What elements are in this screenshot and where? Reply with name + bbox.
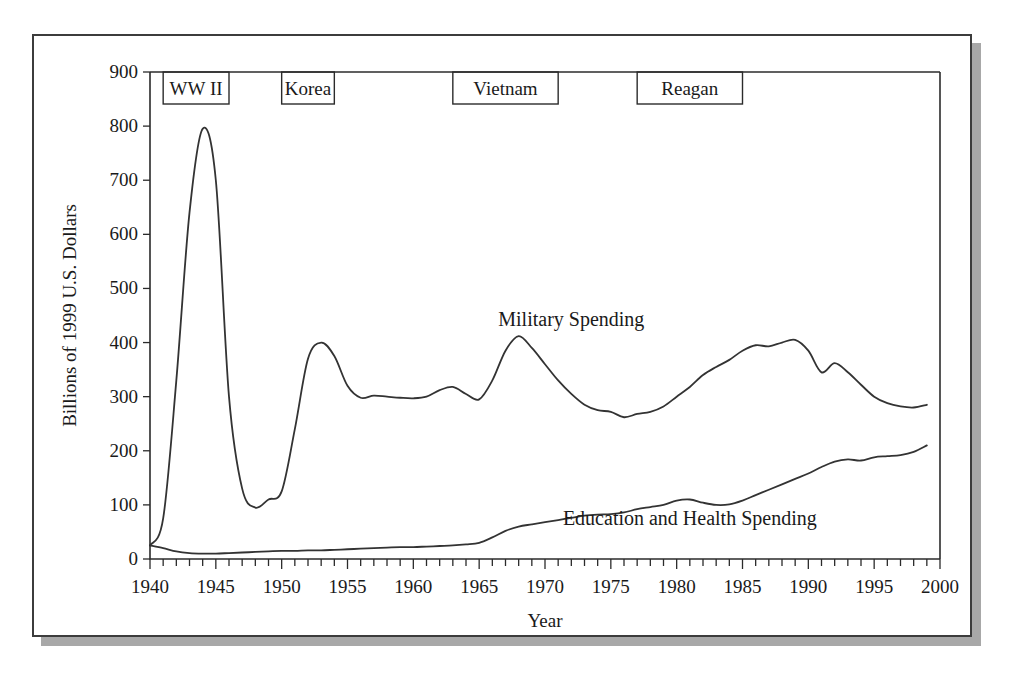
series-layer <box>150 128 927 554</box>
x-tick-label: 1990 <box>789 576 827 597</box>
y-tick-label: 500 <box>110 277 139 298</box>
chart-area: WW IIKoreaVietnamReagan 0100200300400500… <box>34 36 974 639</box>
annotation-label-3: Vietnam <box>473 78 538 99</box>
line-chart: WW IIKoreaVietnamReagan 0100200300400500… <box>34 36 974 639</box>
y-tick-label: 0 <box>129 548 139 569</box>
series-label-1: Military Spending <box>498 308 644 331</box>
figure-page: WW IIKoreaVietnamReagan 0100200300400500… <box>0 0 1025 692</box>
x-tick-label: 1975 <box>592 576 630 597</box>
x-tick-label: 1950 <box>263 576 301 597</box>
x-tick-label: 1960 <box>394 576 432 597</box>
x-tick-label: 1985 <box>724 576 762 597</box>
x-tick-label: 1965 <box>460 576 498 597</box>
x-tick-label: 1945 <box>197 576 235 597</box>
annotation-label-1: WW II <box>170 78 223 99</box>
y-tick-label: 800 <box>110 115 139 136</box>
annotation-label-4: Reagan <box>661 78 718 99</box>
x-tick-label: 1995 <box>855 576 893 597</box>
x-axis-title: Year <box>527 610 563 631</box>
series-label-2: Education and Health Spending <box>563 507 817 530</box>
x-tick-label: 1980 <box>658 576 696 597</box>
y-tick-label: 700 <box>110 169 139 190</box>
y-tick-label: 400 <box>110 332 139 353</box>
figure-frame: WW IIKoreaVietnamReagan 0100200300400500… <box>32 34 972 637</box>
y-tick-label: 900 <box>110 61 139 82</box>
x-tick-label: 1955 <box>329 576 367 597</box>
annotation-layer: WW IIKoreaVietnamReagan <box>163 72 742 104</box>
x-tick-label: 1970 <box>526 576 564 597</box>
annotation-label-2: Korea <box>285 78 332 99</box>
y-tick-label: 100 <box>110 494 139 515</box>
y-tick-label: 300 <box>110 386 139 407</box>
series-line-2 <box>150 445 927 553</box>
y-tick-label: 200 <box>110 440 139 461</box>
y-tick-label: 600 <box>110 223 139 244</box>
series-line-1 <box>150 128 927 546</box>
x-tick-label: 1940 <box>131 576 169 597</box>
x-tick-label: 2000 <box>921 576 959 597</box>
y-axis-title: Billions of 1999 U.S. Dollars <box>59 204 80 427</box>
